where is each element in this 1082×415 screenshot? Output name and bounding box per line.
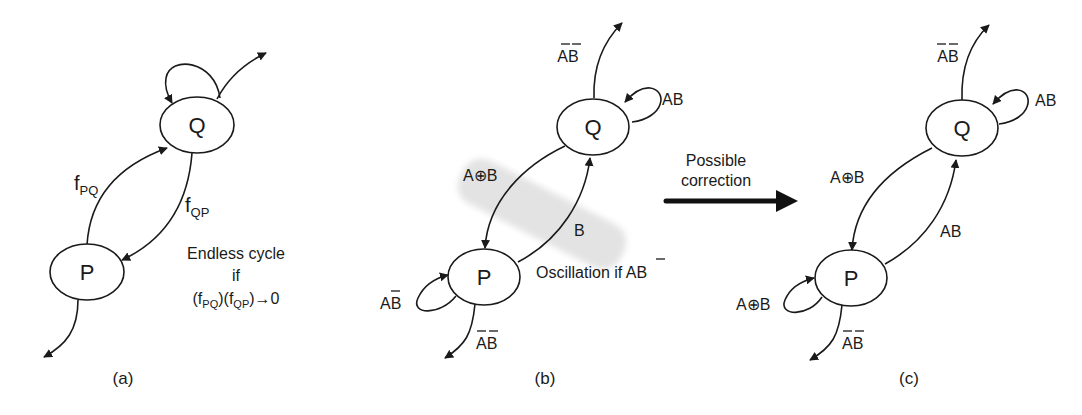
q-self-loop [625,88,661,122]
caption-b: (b) [535,369,556,388]
node-q-label: Q [953,116,970,141]
q-exit-label: AB [937,44,959,65]
svg-text:AB: AB [937,48,958,65]
q-exit-arrow [962,25,989,100]
edge-pq-label: AB [940,223,961,240]
edge-qp-label: fQP [185,194,209,220]
p-loop-label: AB [380,291,401,312]
diagram-svg: Q P fPQ fQP Endless cycle if (fPQ)(fQP)→… [0,0,1082,415]
p-loop-label: A⊕B [736,296,770,313]
node-p-label: P [844,266,859,291]
p-exit-arrow [44,300,78,357]
edge-qp-label: A⊕B [830,169,864,186]
q-loop-label: AB [1035,92,1056,109]
q-self-loop [993,90,1028,124]
endless-cycle-note-line1: Endless cycle [187,245,285,262]
correction-label-line2: correction [681,172,751,189]
svg-text:Oscillation if AB: Oscillation if AB [536,264,647,281]
edge-p-to-q [885,160,956,264]
panel-a: Q P fPQ fQP Endless cycle if (fPQ)(fQP)→… [44,53,285,388]
state-diagram-figure: Q P fPQ fQP Endless cycle if (fPQ)(fQP)→… [0,0,1082,415]
svg-text:AB: AB [842,335,863,352]
svg-text:AB: AB [380,295,401,312]
possible-correction: Possible correction [666,152,798,212]
q-loop-label: AB [662,91,683,108]
edge-q-to-p [852,148,932,250]
edge-q-to-p [122,153,192,260]
endless-cycle-note-line3: (fPQ)(fQP)→0 [193,290,280,310]
endless-cycle-note-line2: if [232,267,241,284]
p-exit-label: AB [476,331,498,352]
correction-label-line1: Possible [686,152,747,169]
q-exit-label: AB [557,44,581,65]
caption-c: (c) [899,369,919,388]
edge-p-to-q [87,148,167,245]
svg-text:AB: AB [476,335,497,352]
caption-a: (a) [113,369,134,388]
p-exit-arrow [445,304,475,358]
p-exit-arrow [810,305,842,360]
node-q-label: Q [188,113,205,138]
edge-pq-label: fPQ [74,172,98,198]
node-p-label: P [477,265,492,290]
edge-qp-label: A⊕B [463,167,497,184]
p-exit-label: AB [842,331,864,352]
node-q-label: Q [584,115,601,140]
node-p-label: P [80,260,95,285]
panel-b: Q P AB AB A⊕B B AB AB Oscillation if AB … [380,23,683,388]
svg-text:AB: AB [557,48,578,65]
q-exit-arrow [594,23,622,98]
correction-arrow-head-icon [776,190,798,212]
q-exit-arrow [217,53,266,99]
edge-pq-label: B [574,222,585,239]
